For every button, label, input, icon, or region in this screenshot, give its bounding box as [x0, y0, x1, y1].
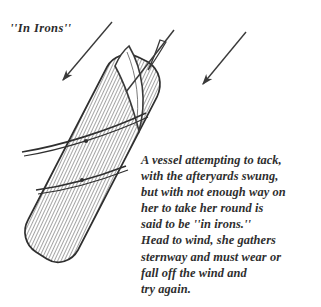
- wind-arrow-right: [203, 32, 246, 84]
- figure-page: ''In Irons'': [0, 0, 321, 307]
- caption-line: with the afteryards swung,: [141, 168, 319, 184]
- caption-line: try again.: [141, 281, 319, 297]
- caption-line: said to be ''in irons.'': [141, 216, 319, 232]
- caption-line: but with not enough way on: [141, 184, 319, 200]
- caption-line: Head to wind, she gathers: [141, 232, 319, 248]
- caption-line: sternway and must wear or: [141, 249, 319, 265]
- caption-line: her to take her round is: [141, 200, 319, 216]
- caption-line: A vessel attempting to tack,: [141, 152, 319, 168]
- caption-line: fall off the wind and: [141, 265, 319, 281]
- caption-block: A vessel attempting to tack, with the af…: [141, 152, 319, 297]
